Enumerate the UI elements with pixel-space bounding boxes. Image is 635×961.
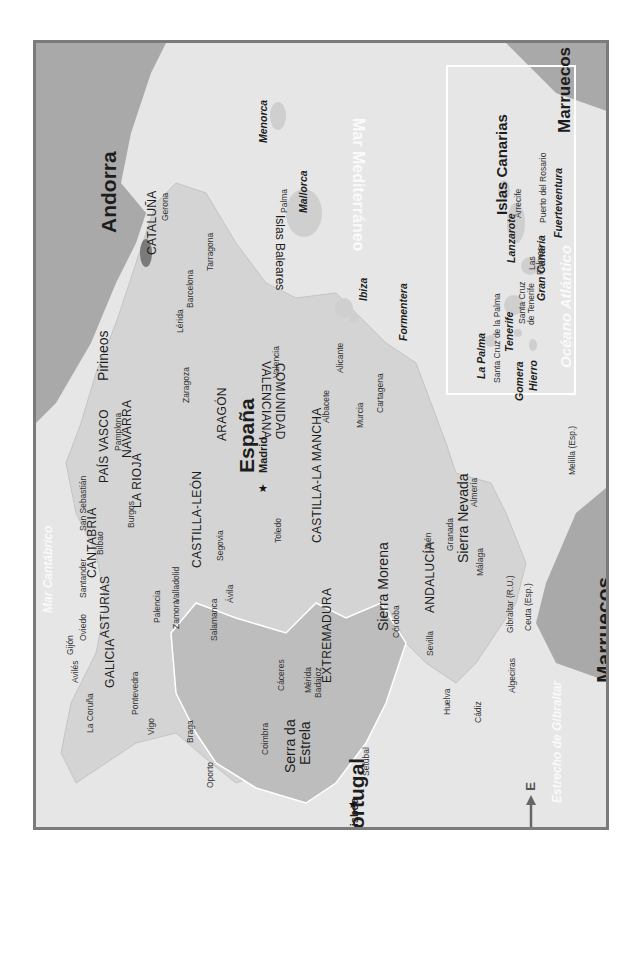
city-label-santander: Santander <box>79 559 88 598</box>
city-label-gijon: Gijón <box>66 635 75 655</box>
island-label-tenerife: Tenerife <box>504 312 515 352</box>
country-label-spain: España <box>236 398 257 473</box>
region-label-la-rioja: LA RIOJA <box>131 453 143 508</box>
map-frame: Andorra España Portugal Marruecos Marrue… <box>33 40 609 830</box>
city-label-santa-cruz-la-palma: Santa Cruz de la Palma <box>493 293 502 383</box>
water-label-oceano-atlantico-inset: Océano Atlántico <box>558 245 573 368</box>
city-label-burgos: Burgos <box>127 501 136 528</box>
city-label-oporto: Oporto <box>206 762 215 788</box>
island-group-label-baleares: Islas Baleares <box>274 215 286 290</box>
capital-label-madrid: Madrid <box>258 437 269 473</box>
city-label-cartagena: Cartagena <box>376 373 385 413</box>
city-label-pamplona: Pamplona <box>114 413 123 451</box>
country-label-morocco-inset: Marruecos <box>556 47 573 133</box>
island-label-la-palma: La Palma <box>476 333 487 379</box>
city-label-caceres: Cáceres <box>277 659 286 691</box>
mountain-label-serra-da: Serra da <box>283 719 297 773</box>
city-label-avila: Ávila <box>226 585 235 603</box>
city-label-palencia: Palencia <box>153 590 162 623</box>
city-label-tarragona: Tarragona <box>206 233 215 271</box>
city-label-granada: Granada <box>446 518 455 551</box>
capital-star-icon: ★ <box>258 483 268 494</box>
city-label-zaragoza: Zaragoza <box>182 367 191 403</box>
compass-east: E <box>523 782 538 791</box>
city-label-badajoz: Badajoz <box>314 667 323 698</box>
city-label-algeciras: Algeciras <box>508 658 517 693</box>
island-label-fuerteventura: Fuerteventura <box>553 168 564 238</box>
mountain-label-estrela: Estrela <box>298 721 312 765</box>
island-label-menorca: Menorca <box>258 100 269 143</box>
water-label-estrecho-gibraltar: Estrecho de Gibraltar <box>551 681 563 803</box>
region-label-asturias: ASTURIAS <box>99 576 111 638</box>
city-label-lerida: Lérida <box>176 309 185 333</box>
country-label-morocco: Marruecos <box>593 577 609 683</box>
city-label-almeria: Almería <box>470 478 479 507</box>
island-label-formentera: Formentera <box>398 283 409 341</box>
region-label-andalucia: ANDALUCÍA <box>424 542 436 613</box>
city-label-murcia: Murcia <box>356 402 365 428</box>
region-label-pais-vasco: PAÍS VASCO <box>98 409 110 483</box>
inset-title-islas-canarias: Islas Canarias <box>494 114 509 215</box>
city-label-setubal: Setúbal <box>362 747 371 776</box>
island-label-mallorca: Mallorca <box>298 170 309 213</box>
compass-north: N <box>481 828 496 830</box>
capital-label-lisboa: Lisboa <box>349 798 360 830</box>
island-label-ibiza: Ibiza <box>358 278 369 301</box>
city-label-pontevedra: Pontevedra <box>131 672 140 715</box>
city-label-cordoba: Córdoba <box>392 605 401 638</box>
city-label-braga: Braga <box>186 720 195 743</box>
compass-south: S <box>580 828 595 830</box>
water-label-mar-mediterraneo: Mar Mediterráneo <box>350 118 366 251</box>
region-label-galicia: GALICIA <box>104 639 116 688</box>
country-label-andorra: Andorra <box>98 151 119 233</box>
city-label-merida: Mérida <box>304 667 313 693</box>
region-label-castilla-la-mancha: CASTILLA-LA MANCHA <box>311 408 323 543</box>
city-label-arrecife: Arrecife <box>514 189 523 218</box>
city-label-palma: Palma <box>280 189 289 213</box>
city-label-segovia: Segovia <box>216 530 225 561</box>
city-label-huelva: Huelva <box>443 689 452 715</box>
city-label-san-sebastian: San Sebastián <box>79 476 88 531</box>
city-label-puerto-rosario: Puerto del Rosario <box>539 153 548 223</box>
city-label-alicante: Alicante <box>336 343 345 373</box>
mountain-label-pirineos: Pirineos <box>96 330 110 381</box>
mountain-label-sierra-nevada: Sierra Nevada <box>456 474 470 564</box>
city-label-malaga: Málaga <box>476 548 485 576</box>
city-label-toledo: Toledo <box>274 518 283 543</box>
city-label-zamora: Zamora <box>172 600 181 629</box>
water-label-mar-cantabrico: Mar Cantábrico <box>42 526 54 613</box>
city-label-bilbao: Bilbao <box>96 531 105 555</box>
city-label-cadiz: Cádiz <box>474 701 483 723</box>
city-label-barcelona: Barcelona <box>186 270 195 308</box>
city-label-valladolid: Valladolid <box>172 567 181 603</box>
city-label-sevilla: Sevilla <box>426 631 435 656</box>
mountain-label-sierra-morena: Sierra Morena <box>376 542 390 631</box>
region-label-cataluna: CATALUÑA <box>146 190 158 255</box>
city-label-la-coruna: La Coruña <box>86 693 95 733</box>
city-label-palmas: Palmas <box>536 247 545 275</box>
city-label-oviedo: Oviedo <box>79 614 88 641</box>
region-label-aragon: ARAGÓN <box>216 387 228 441</box>
city-label-aviles: Avilés <box>71 660 80 683</box>
city-label-jaen: Jaén <box>424 533 433 551</box>
island-label-hierro: Hierro <box>528 360 539 391</box>
city-label-vigo: Vigo <box>147 718 156 735</box>
city-label-coimbra: Coimbra <box>261 723 270 755</box>
city-label-salamanca: Salamanca <box>210 598 219 641</box>
city-label-gerona: Gerona <box>161 193 170 221</box>
city-label-valencia: Valencia <box>272 346 281 378</box>
city-label-gibraltar: Gibraltar (R.U.) <box>506 575 515 633</box>
city-label-albacete: Albacete <box>322 390 331 423</box>
island-label-lanzarote: Lanzarote <box>506 213 517 263</box>
region-label-castilla-leon: CASTILLA-LEÓN <box>191 471 203 568</box>
compass-rose-icon <box>481 793 581 830</box>
city-label-melilla: Melilla (Esp.) <box>568 426 577 475</box>
island-label-gomera: Gomera <box>514 361 525 401</box>
city-label-ceuta: Ceuta (Esp.) <box>524 583 533 631</box>
